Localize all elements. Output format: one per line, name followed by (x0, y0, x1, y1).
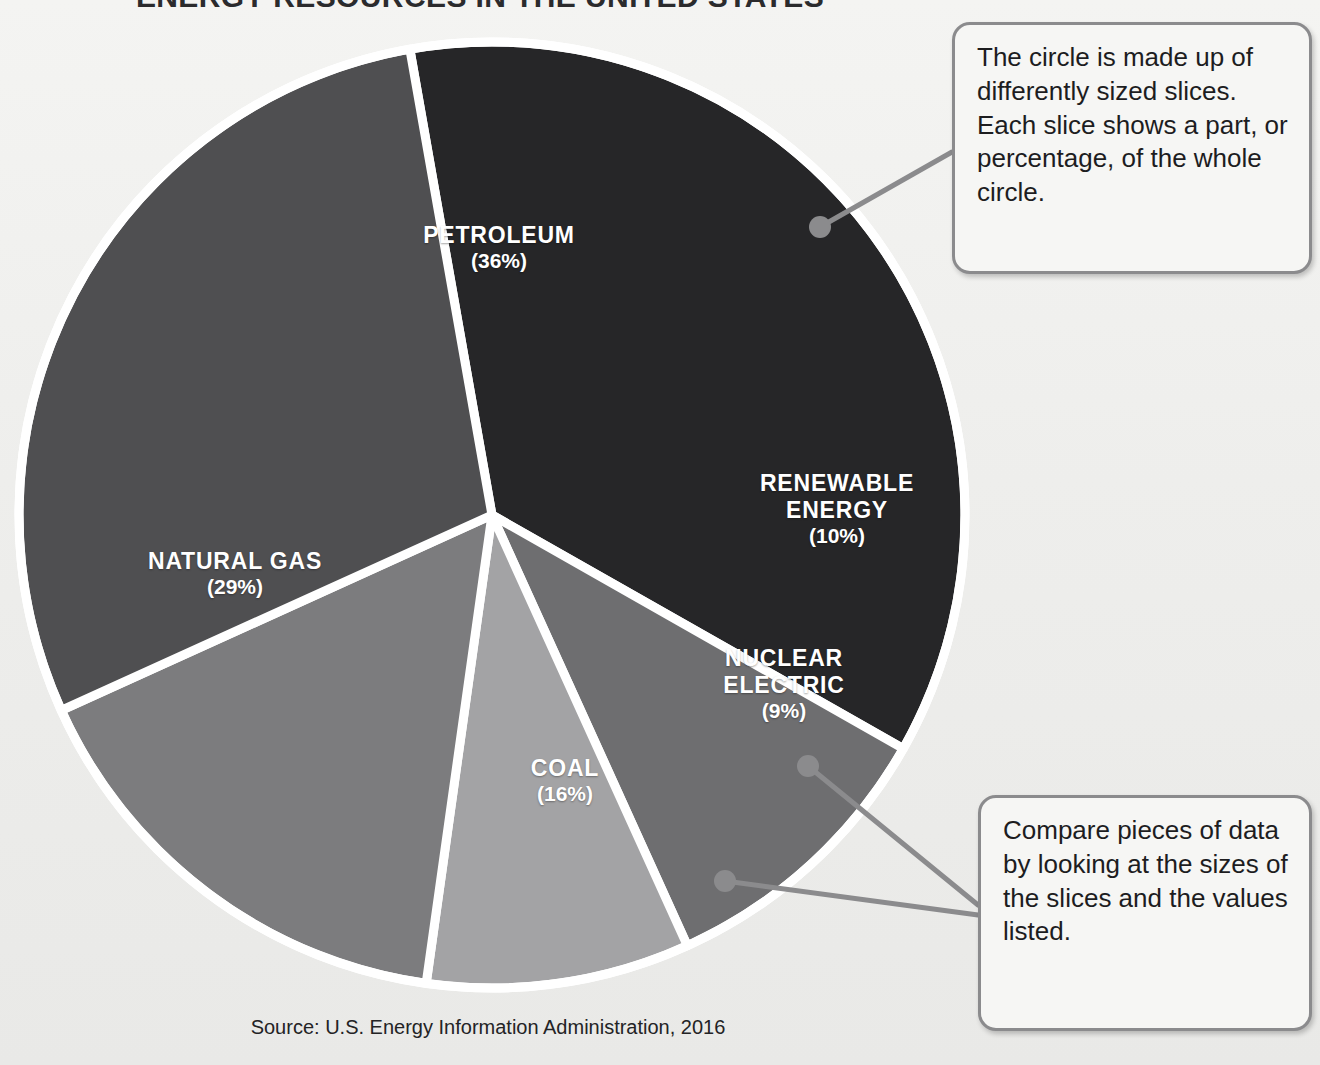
callout-box-circle-explanation: The circle is made up of differently siz… (952, 22, 1312, 274)
source-note: Source: U.S. Energy Information Administ… (228, 1016, 748, 1039)
pie-slices (19, 42, 965, 988)
callout-box-compare-explanation: Compare pieces of data by looking at the… (978, 795, 1312, 1031)
pie-chart: PETROLEUM (36%) RENEWABLE ENERGY (10%) N… (0, 0, 1010, 1010)
pie-chart-svg (0, 0, 1010, 1010)
